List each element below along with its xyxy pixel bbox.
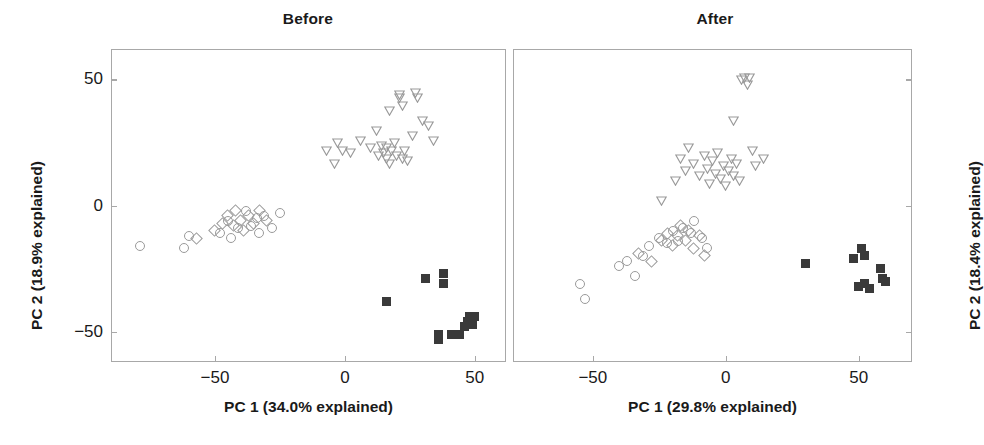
y-ticklabel-1-1: 0 bbox=[49, 196, 103, 216]
x-tick-2-0 bbox=[593, 356, 594, 362]
data-point-group-triangle bbox=[734, 176, 745, 186]
data-point-group-square bbox=[382, 297, 391, 306]
data-point-group-circle bbox=[689, 216, 699, 226]
data-point-group-square bbox=[881, 277, 890, 286]
data-point-group-triangle bbox=[389, 138, 400, 148]
data-point-group-triangle bbox=[355, 136, 366, 146]
data-point-group-triangle bbox=[728, 116, 739, 126]
y-tick-2-0 bbox=[906, 79, 912, 80]
data-point-group-square bbox=[439, 279, 448, 288]
y-ticklabel-1-0: 50 bbox=[49, 69, 103, 89]
data-point-group-triangle bbox=[428, 136, 439, 146]
x-axis-label-1: PC 1 (34.0% explained) bbox=[224, 398, 393, 416]
data-point-group-triangle bbox=[758, 154, 769, 164]
data-point-group-square bbox=[860, 251, 869, 260]
x-tick-1-0 bbox=[215, 356, 216, 362]
data-point-group-circle bbox=[226, 233, 236, 243]
data-point-group-triangle bbox=[402, 156, 413, 166]
x-ticklabel-1-2: 50 bbox=[465, 368, 484, 388]
data-point-group-square bbox=[865, 284, 874, 293]
panel-title-2: After bbox=[696, 10, 733, 28]
data-point-group-triangle bbox=[397, 101, 408, 111]
y-tick-2-2 bbox=[906, 332, 912, 333]
x-tick-2-1 bbox=[726, 356, 727, 362]
y-ticklabel-1-2: −50 bbox=[49, 322, 103, 342]
y-axis-label-2: PC 2 (18.4% explained) bbox=[966, 161, 984, 330]
data-point-group-triangle bbox=[712, 148, 723, 158]
data-point-group-triangle bbox=[704, 179, 715, 189]
data-point-group-diamond bbox=[688, 242, 701, 255]
data-point-group-square bbox=[434, 330, 443, 339]
data-point-group-triangle bbox=[747, 146, 758, 156]
data-point-group-triangle bbox=[656, 196, 667, 206]
plot-area-1 bbox=[111, 49, 506, 362]
y-axis-label-1: PC 2 (18.9% explained) bbox=[28, 161, 46, 330]
data-point-group-circle bbox=[630, 271, 640, 281]
data-point-group-triangle bbox=[412, 93, 423, 103]
y-tick-1-0 bbox=[111, 79, 117, 80]
data-point-group-triangle bbox=[329, 159, 340, 169]
data-point-group-square bbox=[421, 274, 430, 283]
data-point-group-square bbox=[876, 264, 885, 273]
data-point-group-triangle bbox=[683, 143, 694, 153]
y-tick-2-1 bbox=[906, 206, 912, 207]
data-point-group-circle bbox=[644, 241, 654, 251]
data-point-group-circle bbox=[622, 256, 632, 266]
data-point-group-square bbox=[849, 254, 858, 263]
data-point-group-circle bbox=[254, 228, 264, 238]
data-point-group-triangle bbox=[407, 131, 418, 141]
data-point-group-circle bbox=[179, 243, 189, 253]
x-ticklabel-2-1: 0 bbox=[721, 368, 730, 388]
data-point-group-triangle bbox=[675, 154, 686, 164]
x-ticklabel-2-0: −50 bbox=[578, 368, 607, 388]
data-point-group-square bbox=[801, 259, 810, 268]
plot-area-2 bbox=[513, 49, 912, 362]
data-point-group-triangle bbox=[394, 90, 405, 100]
data-point-group-triangle bbox=[345, 148, 356, 158]
x-ticklabel-2-2: 50 bbox=[849, 368, 868, 388]
data-point-group-triangle bbox=[731, 159, 742, 169]
data-point-group-square bbox=[439, 269, 448, 278]
x-tick-2-2 bbox=[859, 356, 860, 362]
x-ticklabel-1-1: 0 bbox=[340, 368, 349, 388]
y-tick-1-1 bbox=[111, 206, 117, 207]
data-point-group-triangle bbox=[720, 181, 731, 191]
data-point-group-circle bbox=[275, 208, 285, 218]
data-point-group-circle bbox=[135, 241, 145, 251]
data-point-group-triangle bbox=[384, 106, 395, 116]
data-point-group-square bbox=[470, 312, 479, 321]
x-tick-1-1 bbox=[345, 356, 346, 362]
data-point-group-triangle bbox=[399, 146, 410, 156]
data-point-group-triangle bbox=[670, 176, 681, 186]
data-point-group-triangle bbox=[423, 121, 434, 131]
x-axis-label-2: PC 1 (29.8% explained) bbox=[628, 398, 797, 416]
data-point-group-triangle bbox=[688, 159, 699, 169]
data-point-group-circle bbox=[580, 294, 590, 304]
x-ticklabel-1-0: −50 bbox=[201, 368, 230, 388]
data-point-group-triangle bbox=[371, 126, 382, 136]
data-point-group-triangle bbox=[321, 146, 332, 156]
x-tick-1-2 bbox=[475, 356, 476, 362]
data-point-group-circle bbox=[575, 279, 585, 289]
data-point-group-triangle bbox=[744, 73, 755, 83]
y-tick-1-2 bbox=[111, 332, 117, 333]
panel-title-1: Before bbox=[283, 10, 333, 28]
